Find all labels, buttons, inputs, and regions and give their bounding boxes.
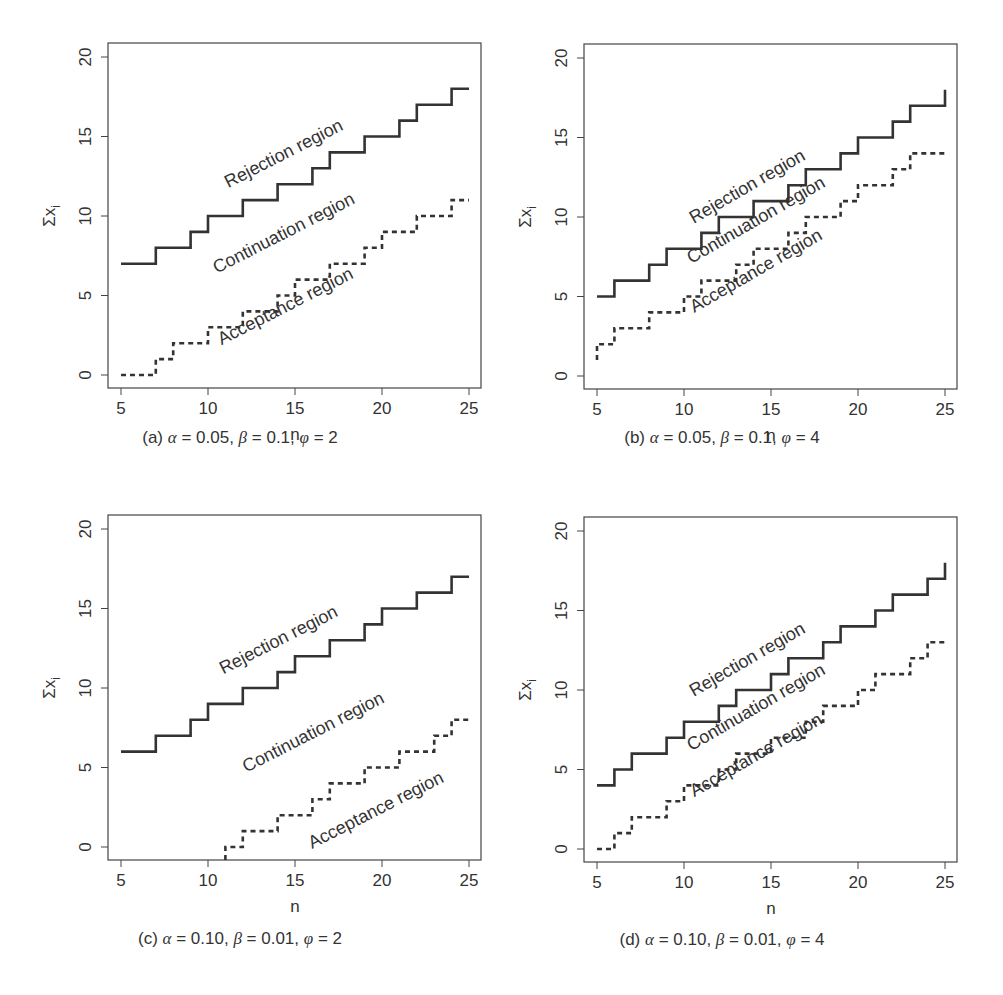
x-axis-label: n (290, 897, 299, 916)
caption-a: (a) α = 0.05, β = 0.1, φ = 2 (0, 428, 480, 448)
x-axis: 510152025n (116, 860, 478, 916)
x-axis: 510152025n (592, 862, 954, 918)
y-tick-label: 10 (552, 208, 571, 227)
y-tick-label: 15 (552, 601, 571, 620)
y-tick-label: 20 (76, 520, 95, 539)
y-axis-label: Σxi (40, 677, 63, 699)
x-tick-label: 10 (675, 873, 694, 892)
y-tick-label: 0 (552, 844, 571, 853)
y-axis-label: Σxi (516, 206, 539, 228)
rejection-region-label: Rejection region (216, 601, 341, 678)
y-tick-label: 20 (552, 522, 571, 541)
continuation-region-label: Continuation region (239, 688, 387, 777)
x-axis-label: n (766, 899, 775, 918)
y-tick-label: 20 (76, 48, 95, 67)
panel-c: 510152025n05101520ΣxiRejection regionCon… (0, 472, 480, 952)
x-tick-label: 15 (286, 399, 305, 418)
y-axis-label: Σxi (516, 679, 539, 701)
y-tick-label: 5 (552, 292, 571, 301)
y-axis: 05101520Σxi (40, 48, 108, 380)
y-axis: 05101520Σxi (40, 520, 108, 852)
y-tick-label: 15 (76, 599, 95, 618)
y-tick-label: 0 (552, 371, 571, 380)
x-tick-label: 25 (936, 873, 955, 892)
rejection-boundary-line (121, 577, 469, 752)
x-tick-label: 10 (199, 399, 218, 418)
y-axis-label: Σxi (40, 205, 63, 227)
x-tick-label: 20 (373, 399, 392, 418)
y-tick-label: 10 (76, 679, 95, 698)
y-tick-label: 20 (552, 49, 571, 68)
y-tick-label: 10 (552, 681, 571, 700)
panel-b: 510152025n05101520ΣxiRejection regionCon… (476, 1, 956, 481)
chart-b: 510152025n05101520ΣxiRejection regionCon… (476, 1, 956, 481)
x-tick-label: 15 (762, 873, 781, 892)
y-tick-label: 0 (76, 370, 95, 379)
caption-b: (b) α = 0.05, β = 0.1, φ = 4 (482, 428, 962, 448)
x-tick-label: 20 (849, 873, 868, 892)
plot-frame (108, 515, 481, 860)
y-axis: 05101520Σxi (516, 522, 584, 854)
x-tick-label: 20 (373, 871, 392, 890)
x-tick-label: 10 (199, 871, 218, 890)
y-tick-label: 15 (552, 128, 571, 147)
y-tick-label: 5 (552, 765, 571, 774)
x-tick-label: 5 (592, 400, 601, 419)
panel-a: 510152025n05101520ΣxiRejection regionCon… (0, 0, 480, 480)
chart-c: 510152025n05101520ΣxiRejection regionCon… (0, 472, 480, 952)
caption-d: (d) α = 0.10, β = 0.01, φ = 4 (482, 930, 962, 950)
x-tick-label: 10 (675, 400, 694, 419)
y-tick-label: 5 (76, 763, 95, 772)
x-tick-label: 20 (849, 400, 868, 419)
acceptance-region-label: Acceptance region (305, 767, 447, 853)
x-tick-label: 15 (762, 400, 781, 419)
acceptance-region-label: Acceptance region (214, 263, 356, 349)
x-tick-label: 15 (286, 871, 305, 890)
y-axis: 05101520Σxi (516, 49, 584, 381)
x-tick-label: 5 (592, 873, 601, 892)
x-tick-label: 5 (116, 871, 125, 890)
x-tick-label: 25 (936, 400, 955, 419)
rejection-region-label: Rejection region (221, 115, 346, 192)
x-tick-label: 5 (116, 399, 125, 418)
chart-d: 510152025n05101520ΣxiRejection regionCon… (476, 474, 956, 954)
chart-a: 510152025n05101520ΣxiRejection regionCon… (0, 0, 480, 480)
y-tick-label: 0 (76, 842, 95, 851)
caption-c: (c) α = 0.10, β = 0.01, φ = 2 (0, 929, 480, 949)
y-tick-label: 15 (76, 127, 95, 146)
y-tick-label: 5 (76, 291, 95, 300)
panel-d: 510152025n05101520ΣxiRejection regionCon… (476, 474, 956, 954)
y-tick-label: 10 (76, 207, 95, 226)
